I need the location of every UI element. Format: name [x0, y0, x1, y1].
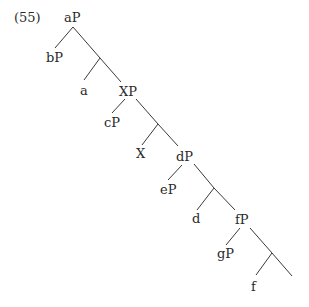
edge-XP-bar	[136, 99, 158, 124]
edge-bar-d	[197, 188, 214, 210]
edge-bar-a	[84, 58, 100, 80]
syntax-tree-diagram: (55) aP bP a XP cP X dP eP d fP gP f	[0, 0, 309, 307]
edge-fP-bar	[250, 228, 272, 253]
node-bP: bP	[46, 50, 63, 65]
edge-dP-eP	[168, 165, 182, 180]
edge-aP-bar	[73, 27, 100, 58]
node-aP: aP	[64, 10, 81, 25]
edge-fP-gP	[226, 228, 240, 245]
node-cP: cP	[104, 115, 120, 130]
edge-aP-bP	[55, 27, 73, 48]
node-XP: XP	[119, 84, 137, 99]
example-number: (55)	[14, 10, 41, 25]
edge-bar-fP	[214, 188, 235, 210]
node-f: f	[251, 279, 257, 294]
node-d: d	[192, 211, 200, 226]
edge-bar-f	[256, 253, 272, 275]
edge-bar-XP	[100, 58, 121, 82]
node-X: X	[136, 146, 146, 161]
node-a: a	[80, 83, 88, 98]
node-fP: fP	[235, 212, 249, 227]
edge-XP-cP	[112, 99, 125, 113]
node-eP: eP	[160, 182, 177, 197]
edge-bar-X	[142, 124, 158, 145]
edge-dP-bar	[194, 164, 214, 188]
node-dP: dP	[176, 149, 193, 164]
edge-bar-dP	[158, 124, 178, 146]
node-gP: gP	[217, 246, 234, 261]
edge-bar-empty	[272, 253, 292, 276]
